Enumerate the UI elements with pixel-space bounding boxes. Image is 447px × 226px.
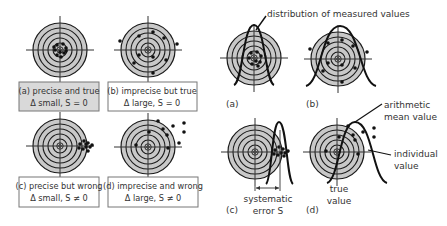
measurement-dot — [353, 66, 357, 70]
individual-value-label-line1: individual — [394, 149, 438, 159]
measurement-dot — [372, 135, 376, 139]
measurement-dot — [273, 148, 277, 152]
measurement-dot — [351, 44, 355, 48]
caption-b-line1: (b) imprecise but true — [107, 86, 197, 96]
measurement-dot — [340, 38, 344, 42]
measurement-dot — [147, 130, 151, 134]
measurement-dot — [78, 142, 82, 146]
distribution-target-c — [221, 118, 293, 186]
measurement-dot — [324, 149, 328, 153]
measurement-dot — [308, 47, 312, 51]
systematic-error-label-line1: systematic — [243, 194, 292, 204]
measurement-dot — [256, 64, 260, 68]
measurement-dot — [156, 119, 160, 123]
measurement-dot — [255, 50, 259, 54]
measurement-dot — [55, 53, 59, 57]
measurement-dot — [372, 126, 376, 130]
target-a — [26, 16, 94, 84]
caption-c-line2: Δ small, S ≠ 0 — [30, 193, 88, 203]
panel-label-d: (d) — [306, 205, 319, 215]
measurement-dot — [151, 71, 155, 75]
measurement-dot — [82, 139, 86, 143]
accuracy-precision-diagram: (a) precise and true Δ small, S = 0 (b) … — [0, 0, 447, 226]
measurement-dot — [247, 56, 251, 60]
caption-c-line1: (c) precise but wrong — [15, 181, 102, 191]
measurement-dot — [250, 62, 254, 66]
measurement-dot — [254, 59, 258, 63]
measurement-dot — [84, 142, 88, 146]
right-panel-distributions — [220, 24, 387, 191]
true-value-label-line1: true — [330, 184, 349, 194]
caption-a-line1: (a) precise and true — [19, 86, 100, 96]
arithmetic-mean-leader-line — [355, 104, 382, 122]
distribution-target-a — [220, 24, 288, 92]
measurement-dot — [175, 42, 179, 46]
measurement-dot — [77, 146, 81, 150]
measurement-dot — [356, 152, 360, 156]
measurement-dot — [165, 133, 169, 137]
diagram-canvas: (a) precise and true Δ small, S = 0 (b) … — [0, 0, 447, 226]
left-panel-targets — [19, 16, 198, 207]
distribution-leader-line — [256, 16, 266, 30]
measurement-dot — [326, 61, 330, 65]
caption-d-line1: (d) imprecise and wrong — [103, 181, 203, 191]
measurement-dot — [52, 45, 56, 49]
measurement-dot — [258, 60, 262, 64]
measurement-dot — [182, 130, 186, 134]
distribution-annotation: distribution of measured values — [267, 9, 410, 19]
caption-a-line2: Δ small, S = 0 — [30, 98, 88, 108]
measurement-dot — [137, 34, 141, 38]
measurement-dot — [259, 54, 263, 58]
measurement-dot — [61, 42, 65, 46]
measurement-dot — [353, 138, 357, 142]
measurement-dot — [166, 146, 170, 150]
measurement-dot — [132, 61, 136, 65]
measurement-dot — [161, 127, 165, 131]
individual-value-leader-line — [368, 150, 391, 155]
measurement-dot — [118, 39, 122, 43]
panel-label-a: (a) — [226, 99, 239, 109]
measurement-dot — [134, 143, 138, 147]
measurement-dot — [151, 55, 155, 59]
measurement-dot — [64, 49, 68, 53]
measurement-dot — [340, 63, 344, 67]
measurement-dot — [276, 153, 280, 157]
measurement-dot — [337, 135, 341, 139]
measurement-dot — [351, 133, 355, 137]
measurement-dot — [137, 53, 141, 57]
true-value-label-line2: value — [327, 196, 352, 206]
measurement-dot — [151, 30, 155, 34]
measurement-dot — [58, 50, 62, 54]
measurement-dot — [162, 36, 166, 40]
individual-value-label-line2: value — [394, 161, 419, 171]
systematic-error-label-line2: error S — [253, 206, 284, 216]
arrowhead-left-icon — [256, 186, 260, 190]
caption-b-line2: Δ large, S = 0 — [124, 98, 181, 108]
measurement-dot — [55, 43, 59, 47]
measurement-dot — [365, 50, 369, 54]
distribution-target-b — [304, 25, 376, 93]
measurement-dot — [86, 149, 90, 153]
measurement-dot — [81, 147, 85, 151]
arithmetic-mean-label-line2: mean value — [384, 112, 437, 122]
target-d — [114, 113, 186, 181]
measurement-dot — [282, 154, 286, 158]
measurement-dot — [171, 124, 175, 128]
measurement-dot — [321, 69, 325, 73]
arithmetic-mean-label-line1: arithmetic — [384, 100, 430, 110]
measurement-dot — [59, 55, 63, 59]
target-c — [26, 112, 94, 180]
arrowhead-right-icon — [275, 186, 279, 190]
measurement-dot — [281, 147, 285, 151]
panel-label-b: (b) — [306, 99, 319, 109]
measurement-dot — [177, 141, 181, 145]
measurement-dot — [164, 58, 168, 62]
target-b — [114, 16, 182, 84]
measurement-dot — [90, 143, 94, 147]
measurement-dot — [182, 121, 186, 125]
measurement-dot — [249, 51, 253, 55]
panel-label-c: (c) — [226, 205, 238, 215]
measurement-dot — [340, 80, 344, 84]
caption-d-line2: Δ large, S ≠ 0 — [125, 193, 182, 203]
